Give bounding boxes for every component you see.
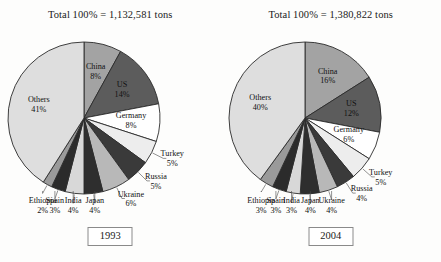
- chart-panel-1993: Total 100% = 1,132,581 tons China8%US14%…: [0, 0, 221, 262]
- slice-label-ukraine: Ukraine4%: [318, 196, 345, 215]
- pie-svg: China16%US12%Germany6%Turkey5%Russia4%Uk…: [221, 25, 441, 215]
- leader-line-ethiopia: [43, 186, 47, 194]
- slice-label-india: India4%: [65, 196, 82, 215]
- slice-label-japan: Japan4%: [301, 196, 320, 215]
- slice-label-china: China16%: [317, 67, 337, 86]
- year-badge-1993: 1993: [88, 227, 133, 246]
- pie-canvas-2004: China16%US12%Germany6%Turkey5%Russia4%Uk…: [221, 25, 441, 215]
- pie-svg: China8%US14%Germany8%Turkey5%Russia5%Ukr…: [0, 25, 220, 215]
- chart-panel-2004: Total 100% = 1,380,822 tons China16%US12…: [221, 0, 441, 262]
- slice-label-japan: Japan4%: [85, 196, 104, 215]
- pie-title: Total 100% = 1,380,822 tons: [221, 9, 441, 20]
- slice-label-india: India3%: [283, 196, 300, 215]
- year-badge-2004: 2004: [308, 227, 353, 246]
- pie-title: Total 100% = 1,132,581 tons: [0, 9, 221, 20]
- leader-line-ethiopia: [261, 184, 266, 192]
- pie-chart-comparison: Total 100% = 1,132,581 tons China8%US14%…: [0, 0, 441, 262]
- pie-canvas-1993: China8%US14%Germany8%Turkey5%Russia5%Ukr…: [0, 25, 221, 215]
